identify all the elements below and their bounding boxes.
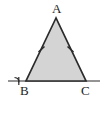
triangle-abc <box>26 18 86 81</box>
vertex-label-c: C <box>81 84 90 97</box>
vertex-label-b: B <box>20 84 29 97</box>
vertex-label-a: A <box>52 2 61 15</box>
geometry-figure: A B C <box>0 0 104 113</box>
